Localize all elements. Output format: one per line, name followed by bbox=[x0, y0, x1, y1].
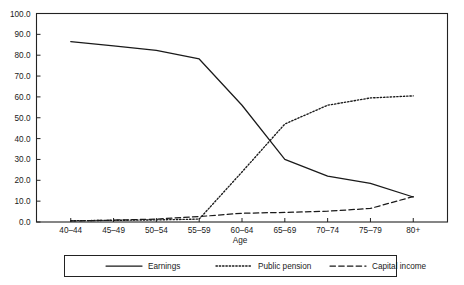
x-tick-label: 40–44 bbox=[59, 226, 82, 235]
y-tick-label: 100.0 bbox=[10, 10, 31, 19]
legend-label-earnings: Earnings bbox=[148, 262, 180, 271]
series-line-earnings bbox=[71, 42, 414, 197]
y-axis-tick-labels: 0.010.020.030.040.050.060.070.080.090.01… bbox=[10, 10, 31, 228]
legend-label-capital-income: Capital income bbox=[372, 262, 427, 271]
y-tick-label: 80.0 bbox=[15, 51, 31, 60]
y-tick-label: 10.0 bbox=[15, 197, 31, 206]
x-axis-title: Age bbox=[233, 236, 248, 245]
y-tick-label: 90.0 bbox=[15, 30, 31, 39]
chart-legend: EarningsPublic pensionCapital income bbox=[65, 256, 427, 277]
x-tick-label: 50–54 bbox=[145, 226, 168, 235]
chart-figure: 0.010.020.030.040.050.060.070.080.090.01… bbox=[0, 0, 464, 285]
y-tick-label: 0.0 bbox=[19, 218, 31, 227]
y-tick-label: 30.0 bbox=[15, 155, 31, 164]
x-tick-label: 70–74 bbox=[316, 226, 339, 235]
x-tick-label: 60–64 bbox=[231, 226, 254, 235]
y-axis-ticks bbox=[37, 14, 41, 223]
line-chart: 0.010.020.030.040.050.060.070.080.090.01… bbox=[0, 0, 464, 285]
x-tick-label: 55–59 bbox=[188, 226, 211, 235]
series-line-capital-income bbox=[71, 197, 414, 221]
y-tick-label: 60.0 bbox=[15, 93, 31, 102]
x-tick-label: 80+ bbox=[406, 226, 420, 235]
x-tick-label: 75–79 bbox=[359, 226, 382, 235]
y-tick-label: 70.0 bbox=[15, 72, 31, 81]
y-tick-label: 40.0 bbox=[15, 135, 31, 144]
y-tick-label: 20.0 bbox=[15, 176, 31, 185]
legend-label-public-pension: Public pension bbox=[258, 262, 312, 271]
series-line-public-pension bbox=[71, 96, 414, 221]
legend-items: EarningsPublic pensionCapital income bbox=[106, 262, 427, 271]
x-tick-label: 45–49 bbox=[102, 226, 125, 235]
x-tick-label: 65–69 bbox=[273, 226, 296, 235]
x-axis-tick-labels: 40–4445–4950–5455–5960–6465–6970–7475–79… bbox=[59, 226, 420, 235]
data-series-group bbox=[71, 42, 414, 221]
y-tick-label: 50.0 bbox=[15, 114, 31, 123]
